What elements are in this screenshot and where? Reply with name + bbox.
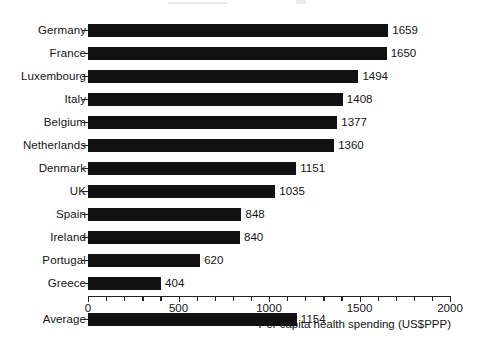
value-label-greece: 404: [165, 277, 184, 290]
bar-france: [88, 47, 387, 60]
x-axis-minor-tick: [323, 296, 324, 301]
bar-denmark: [88, 162, 296, 175]
x-axis-minor-tick: [251, 296, 252, 301]
y-axis-label-average: Average: [43, 313, 86, 325]
bar-greece: [88, 277, 161, 290]
value-label-ireland: 840: [244, 231, 263, 244]
bar-luxembourg: [88, 70, 358, 83]
x-axis-tick-label: 1500: [347, 302, 373, 315]
y-axis-label-belgium: Belgium: [44, 116, 86, 128]
y-axis-label-greece: Greece: [48, 277, 86, 289]
x-axis-minor-tick: [305, 296, 306, 301]
value-label-denmark: 1151: [300, 162, 325, 175]
x-axis-minor-tick: [432, 296, 433, 301]
bar-germany: [88, 24, 388, 37]
y-axis-label-ireland: Ireland: [50, 231, 86, 243]
x-axis-tick-label: 2000: [437, 302, 463, 315]
value-label-france: 1650: [391, 47, 417, 60]
x-axis-minor-tick: [142, 296, 143, 301]
y-axis-label-portugal: Portugal: [42, 254, 86, 266]
bar-ireland: [88, 231, 240, 244]
value-label-netherlands: 1360: [338, 139, 364, 152]
bar-chart: Germany France Luxembourg Italy Belgium …: [0, 0, 480, 342]
x-axis-minor-tick: [215, 296, 216, 301]
y-axis-label-denmark: Denmark: [39, 162, 86, 174]
x-axis-tick-label: 0: [85, 302, 91, 315]
y-axis-label-germany: Germany: [38, 24, 86, 36]
value-label-italy: 1408: [347, 93, 373, 106]
value-label-portugal: 620: [204, 254, 223, 267]
y-axis-label-france: France: [50, 47, 86, 59]
x-axis-minor-tick: [414, 296, 415, 301]
bar-portugal: [88, 254, 200, 267]
x-axis-minor-tick: [124, 296, 125, 301]
value-label-spain: 848: [245, 208, 264, 221]
scan-artifact: [296, 0, 306, 4]
bar-spain: [88, 208, 241, 221]
y-axis-label-luxembourg: Luxembourg: [21, 70, 86, 82]
y-axis-label-netherlands: Netherlands: [23, 139, 86, 151]
x-axis-minor-tick: [341, 296, 342, 301]
x-axis-minor-tick: [396, 296, 397, 301]
x-axis-minor-tick: [233, 296, 234, 301]
x-axis-minor-tick: [197, 296, 198, 301]
x-axis-minor-tick: [287, 296, 288, 301]
x-axis-minor-tick: [106, 296, 107, 301]
value-label-uk: 1035: [279, 185, 305, 198]
value-label-belgium: 1377: [341, 116, 367, 129]
x-axis-minor-tick: [378, 296, 379, 301]
bar-uk: [88, 185, 275, 198]
scan-artifact: [168, 2, 228, 4]
value-label-germany: 1659: [392, 24, 418, 37]
x-axis-minor-tick: [160, 296, 161, 301]
bar-italy: [88, 93, 343, 106]
bar-belgium: [88, 116, 337, 129]
x-axis-tick-label: 500: [169, 302, 188, 315]
value-label-luxembourg: 1494: [362, 70, 388, 83]
bar-netherlands: [88, 139, 334, 152]
x-axis-title: Per capita health spending (US$PPP): [259, 318, 451, 331]
x-axis-tick-label: 1000: [256, 302, 282, 315]
